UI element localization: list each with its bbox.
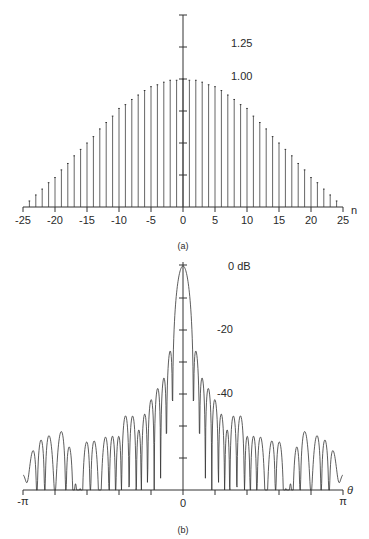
stem: [201, 82, 203, 207]
stem: [278, 143, 280, 207]
x-axis-label-theta: θ: [347, 484, 353, 496]
stem: [253, 116, 255, 207]
y-label-minus-20: -20: [217, 323, 233, 335]
x-tick-label: 25: [337, 214, 349, 226]
stem: [233, 99, 235, 207]
stem: [93, 137, 95, 207]
figure: -25-20-15-10-50510152025 1.25 1.00 n (a)…: [0, 0, 369, 539]
stem: [125, 105, 127, 207]
stem: [73, 156, 75, 207]
stem: [35, 195, 37, 207]
stem: [336, 201, 338, 207]
y-label-1-00: 1.00: [231, 70, 252, 82]
stem: [323, 189, 325, 207]
stem: [272, 137, 274, 207]
stem: [105, 123, 107, 207]
stem: [163, 82, 165, 207]
stem: [144, 91, 146, 207]
stem: [48, 183, 50, 207]
stem: [195, 80, 197, 207]
stem: [54, 178, 56, 207]
caption-a: (a): [178, 241, 189, 251]
stem: [169, 80, 171, 207]
stem: [80, 149, 82, 207]
stem: [131, 99, 133, 207]
stem: [304, 170, 306, 207]
stem: [240, 105, 242, 207]
stem: [297, 163, 299, 207]
x-ticks-a: -25-20-15-10-50510152025: [15, 207, 349, 226]
stem: [61, 170, 63, 207]
stem: [29, 201, 31, 207]
stem: [208, 85, 210, 207]
stem: [41, 189, 43, 207]
x-tick-label: -10: [111, 214, 127, 226]
y-label-1-25: 1.25: [231, 37, 252, 49]
stem: [214, 87, 216, 207]
stem: [291, 156, 293, 207]
stem: [86, 143, 88, 207]
x-tick-label: 20: [305, 214, 317, 226]
x-label-minus-pi: -π: [17, 495, 29, 507]
stem: [310, 178, 312, 207]
x-tick-label: -20: [47, 214, 63, 226]
stem: [118, 108, 120, 207]
stem: [329, 195, 331, 207]
x-tick-label: -5: [146, 214, 156, 226]
stem: [246, 108, 248, 207]
stem: [150, 87, 152, 207]
x-tick-label: 10: [241, 214, 253, 226]
stem: [227, 95, 229, 207]
x-tick-label: 5: [212, 214, 218, 226]
x-axis-label-n: n: [351, 204, 357, 216]
stem: [189, 80, 191, 207]
x-tick-label: -15: [79, 214, 95, 226]
x-tick-label: -25: [15, 214, 31, 226]
stem: [112, 116, 114, 207]
stem: [176, 80, 178, 207]
stem: [99, 129, 101, 207]
y-label-minus-40: -40: [217, 387, 233, 399]
x-label-pi: π: [339, 495, 347, 507]
stem: [285, 149, 287, 207]
x-ticks-b: [23, 490, 343, 495]
stem: [67, 163, 69, 207]
x-tick-label: 0: [180, 214, 186, 226]
stem: [317, 183, 319, 207]
x-tick-label: 15: [273, 214, 285, 226]
stem: [265, 129, 267, 207]
stem: [221, 91, 223, 207]
y-label-0-db: 0 dB: [228, 260, 251, 272]
stem: [157, 85, 159, 207]
x-label-zero: 0: [180, 497, 186, 509]
chart-a: -25-20-15-10-50510152025 1.25 1.00 n (a): [15, 15, 357, 251]
chart-b: 0 dB -20 -40 -π 0 π θ (b): [17, 260, 353, 535]
stem: [137, 95, 139, 207]
caption-b: (b): [178, 525, 189, 535]
stem: [259, 123, 261, 207]
